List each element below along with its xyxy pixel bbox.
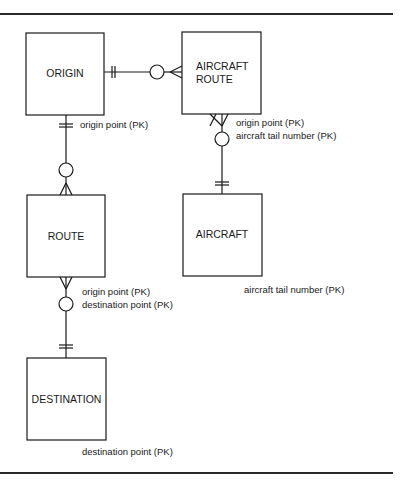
entity-name-line-2: ROUTE [196,73,233,85]
attribute-label: destination point (PK) [82,299,173,310]
entity-aircraft: AIRCRAFT aircraft tail number (PK) [183,194,344,295]
attribute-label: aircraft tail number (PK) [236,130,336,141]
zero-mark [59,297,73,311]
zero-mark [59,163,73,177]
crows-foot [222,114,228,126]
crows-foot [66,183,72,195]
attribute-label: destination point (PK) [82,446,173,457]
crows-foot [170,72,182,78]
entity-name: ORIGIN [46,67,83,79]
attribute-label: origin point (PK) [236,117,304,128]
entity-name: AIRCRAFT [196,228,249,240]
crows-foot [66,277,72,289]
attribute-label: aircraft tail number (PK) [244,284,344,295]
crows-foot [60,277,66,289]
zero-mark [215,132,229,146]
relationship-origin-route [59,115,73,195]
zero-mark [150,65,164,79]
entity-route: ROUTE origin point (PK) destination poin… [27,195,173,310]
crows-foot [60,183,66,195]
er-diagram: ORIGIN origin point (PK) AIRCRAFT ROUTE … [0,0,406,485]
relationship-aircraft-route-aircraft [210,114,229,194]
relationship-route-destination [59,277,73,358]
crows-foot [170,66,182,72]
attribute-label: origin point (PK) [80,119,148,130]
entity-aircraft-route: AIRCRAFT ROUTE origin point (PK) aircraf… [182,32,336,141]
entity-name-line-1: AIRCRAFT [196,60,249,72]
entity-origin: ORIGIN origin point (PK) [26,33,148,130]
attribute-label: origin point (PK) [82,286,150,297]
entity-name: DESTINATION [32,393,102,405]
crows-foot [210,114,216,126]
entity-destination: DESTINATION destination point (PK) [27,358,173,457]
relationship-origin-aircraft-route [104,65,182,79]
entity-name: ROUTE [48,230,85,242]
